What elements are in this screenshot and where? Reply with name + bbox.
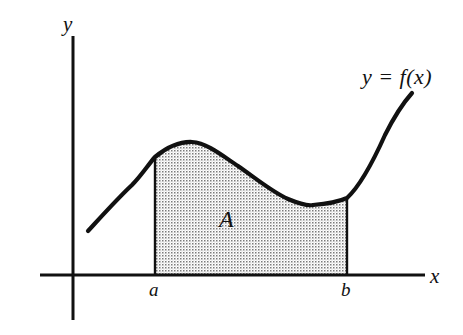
- x-axis-label: x: [430, 264, 439, 289]
- y-axis-label: y: [63, 12, 72, 37]
- shaded-area-region: [155, 142, 347, 275]
- area-region-label: A: [219, 206, 234, 233]
- lower-bound-label-a: a: [149, 279, 159, 301]
- upper-bound-label-b: b: [341, 279, 351, 301]
- diagram-svg: [0, 0, 463, 335]
- curve-equation-label: y = f(x): [362, 64, 432, 90]
- figure-canvas: y x a b A y = f(x): [0, 0, 463, 335]
